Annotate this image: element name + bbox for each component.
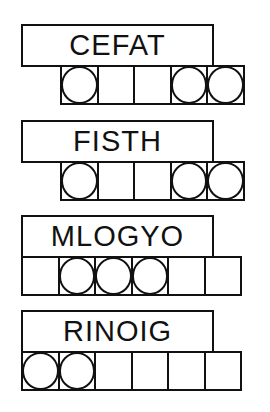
word-puzzle-2: FISTH — [0, 120, 270, 210]
circle-marker-icon — [59, 352, 96, 390]
circle-marker-icon — [61, 66, 98, 104]
answer-cell-circled[interactable] — [58, 351, 97, 391]
answer-cell[interactable] — [204, 256, 243, 296]
scrambled-word: FISTH — [21, 120, 214, 163]
scrambled-word: MLOGYO — [21, 215, 214, 258]
answer-cell-circled[interactable] — [58, 256, 97, 296]
answer-cell-circled[interactable] — [206, 65, 245, 105]
answer-cell[interactable] — [133, 161, 172, 201]
answer-cell-circled[interactable] — [94, 256, 133, 296]
word-puzzle-4: RINOIG — [0, 310, 270, 400]
circle-marker-icon — [61, 162, 98, 200]
answer-cell[interactable] — [133, 65, 172, 105]
circle-marker-icon — [95, 257, 132, 295]
answer-cells — [21, 256, 242, 298]
answer-cell-circled[interactable] — [60, 161, 99, 201]
answer-cells — [21, 351, 242, 393]
answer-cells — [60, 161, 245, 203]
circle-marker-icon — [22, 352, 59, 390]
word-puzzle-1: CEFAT — [0, 24, 270, 114]
circle-marker-icon — [132, 257, 169, 295]
answer-cell[interactable] — [131, 351, 170, 391]
word-puzzle-3: MLOGYO — [0, 215, 270, 305]
answer-cell-circled[interactable] — [60, 65, 99, 105]
scrambled-word: RINOIG — [21, 310, 214, 353]
answer-cell-circled[interactable] — [131, 256, 170, 296]
answer-cells — [60, 65, 245, 107]
answer-cell[interactable] — [97, 161, 136, 201]
answer-cell[interactable] — [97, 65, 136, 105]
answer-cell[interactable] — [21, 256, 60, 296]
scrambled-word: CEFAT — [21, 24, 214, 67]
answer-cell[interactable] — [167, 256, 206, 296]
circle-marker-icon — [207, 66, 244, 104]
circle-marker-icon — [171, 162, 208, 200]
answer-cell[interactable] — [204, 351, 243, 391]
answer-cell-circled[interactable] — [206, 161, 245, 201]
answer-cell-circled[interactable] — [21, 351, 60, 391]
answer-cell-circled[interactable] — [170, 161, 209, 201]
answer-cell[interactable] — [167, 351, 206, 391]
circle-marker-icon — [171, 66, 208, 104]
answer-cell[interactable] — [94, 351, 133, 391]
circle-marker-icon — [207, 162, 244, 200]
answer-cell-circled[interactable] — [170, 65, 209, 105]
circle-marker-icon — [59, 257, 96, 295]
